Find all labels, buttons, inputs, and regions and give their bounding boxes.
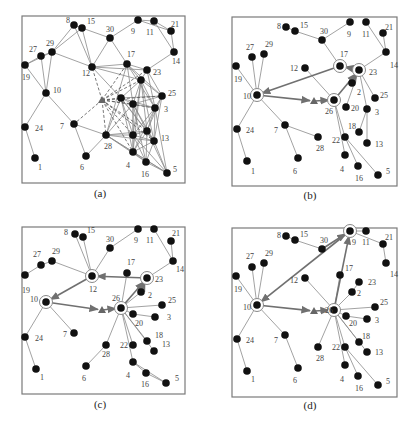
node-label-14: 14 (176, 265, 184, 274)
node-23 (355, 66, 363, 74)
node-14 (382, 259, 390, 267)
node-22 (341, 133, 349, 141)
node-label-4: 4 (126, 161, 130, 170)
node-label-2: 2 (357, 88, 361, 97)
node-17 (123, 60, 131, 68)
node-4 (341, 151, 349, 159)
node-17 (336, 271, 344, 279)
node-label-27: 27 (33, 250, 41, 259)
route-arrow-9-10 (261, 231, 350, 302)
node-19 (232, 62, 240, 70)
node-label-3: 3 (167, 313, 171, 322)
edge-22-16 (345, 137, 358, 166)
node-label-18: 18 (348, 122, 356, 131)
node-24 (21, 123, 29, 131)
edge-15-30 (295, 240, 322, 249)
panel-b: 1234567891011121314151617181920212223242… (232, 17, 398, 186)
node-label-12: 12 (89, 285, 97, 294)
node-7 (70, 120, 78, 128)
node-9 (346, 227, 354, 235)
node-label-30: 30 (320, 236, 328, 245)
node-label-3: 3 (164, 105, 168, 114)
node-27 (248, 53, 256, 61)
node-10 (253, 91, 261, 99)
node-label-5: 5 (173, 165, 177, 174)
node-label-6: 6 (82, 374, 86, 383)
node-10 (42, 298, 50, 306)
node-label-1: 1 (251, 167, 255, 176)
node-label-28: 28 (104, 142, 112, 151)
node-label-15: 15 (87, 17, 95, 26)
node-15 (79, 233, 87, 241)
node-2 (348, 288, 356, 296)
node-6 (294, 364, 302, 372)
node-label-17: 17 (345, 264, 353, 273)
node-label-7: 7 (60, 122, 64, 131)
node-24 (233, 125, 241, 133)
node-label-17: 17 (127, 258, 135, 267)
node-label-25: 25 (380, 91, 388, 100)
route-arrow-23-12 (97, 276, 147, 278)
edge-24-1 (25, 127, 35, 158)
node-label-16: 16 (141, 170, 149, 179)
node-label-20: 20 (135, 319, 143, 328)
node-17 (123, 269, 131, 277)
node-label-7: 7 (274, 336, 278, 345)
node-label-26: 26 (325, 107, 333, 116)
node-5 (374, 171, 382, 179)
node-label-21: 21 (385, 233, 393, 242)
node-label-9: 9 (352, 238, 356, 247)
node-22 (129, 341, 137, 349)
edge-7-28 (74, 124, 106, 135)
edge-30-17 (110, 38, 127, 64)
edge-7-6 (74, 124, 86, 156)
node-7 (281, 331, 289, 339)
node-label-27: 27 (29, 45, 37, 54)
node-label-13: 13 (375, 140, 383, 149)
edge-22-5 (345, 137, 378, 175)
node-label-26: 26 (325, 306, 333, 315)
node-14 (169, 257, 177, 265)
node-5 (374, 381, 382, 389)
node-label-30: 30 (320, 27, 328, 36)
node-20 (129, 100, 137, 108)
node-12 (301, 274, 309, 282)
node-label-2: 2 (148, 291, 152, 300)
node-19 (21, 271, 29, 279)
node-label-4: 4 (340, 165, 344, 174)
node-30 (318, 36, 326, 44)
node-1 (243, 367, 251, 375)
node-10 (42, 89, 50, 97)
dashed-edge-sink-3 (102, 100, 155, 108)
node-27 (37, 52, 45, 60)
node-label-7: 7 (274, 126, 278, 135)
caption-c: (c) (80, 398, 120, 410)
node-18 (355, 128, 363, 136)
node-25 (371, 303, 379, 311)
node-20 (342, 103, 350, 111)
node-label-23: 23 (155, 275, 163, 284)
network-diagram-canvas: 1345678910111213141516171921232425272829… (0, 0, 411, 430)
edge-10-7 (46, 93, 74, 124)
edge-29-10 (46, 52, 52, 93)
panel-d: 1234567891011121314151617181920212223242… (232, 225, 398, 398)
node-29 (260, 50, 268, 58)
node-23 (143, 66, 151, 74)
node-3 (363, 105, 371, 113)
node-label-3: 3 (375, 316, 379, 325)
node-label-28: 28 (102, 350, 110, 359)
node-label-8: 8 (277, 22, 281, 31)
node-29 (48, 48, 56, 56)
node-14 (170, 48, 178, 56)
route-arrow-sink-26 (314, 100, 329, 101)
node-label-1: 1 (40, 373, 44, 382)
node-26 (330, 96, 338, 104)
node-label-24: 24 (246, 126, 254, 135)
node-label-17: 17 (340, 50, 348, 59)
node-14 (382, 48, 390, 56)
edge-15-30 (295, 31, 322, 40)
node-label-23: 23 (153, 68, 161, 77)
node-28 (314, 133, 322, 141)
node-label-16: 16 (141, 380, 149, 389)
node-2 (137, 76, 145, 84)
